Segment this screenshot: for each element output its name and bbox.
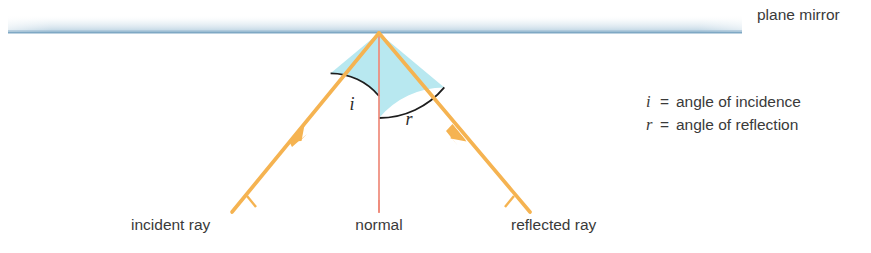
normal-label: normal bbox=[355, 216, 402, 233]
label-leaders bbox=[247, 196, 514, 212]
incident-ray bbox=[232, 33, 379, 212]
reflected-ray bbox=[379, 33, 530, 212]
mirror-band-edge-fade bbox=[8, 15, 742, 32]
incident-ray-line bbox=[232, 33, 379, 212]
legend-text-reflection: angle of reflection bbox=[676, 116, 798, 133]
plane-mirror-label: plane mirror bbox=[757, 6, 840, 23]
legend-equals-r: = bbox=[660, 116, 669, 133]
plane-mirror bbox=[8, 15, 742, 33]
reflected-ray-line bbox=[379, 33, 530, 212]
reflected-ray-label: reflected ray bbox=[511, 216, 597, 233]
legend: i = angle of incidence r = angle of refl… bbox=[646, 92, 801, 134]
angle-label-r: r bbox=[405, 109, 413, 129]
reflected-ray-leader bbox=[505, 196, 514, 207]
reflection-diagram: i r plane mirror i = angle of incidence … bbox=[0, 0, 871, 253]
legend-symbol-r: r bbox=[646, 115, 653, 134]
angle-label-i: i bbox=[349, 94, 354, 114]
incident-ray-leader bbox=[247, 196, 256, 207]
legend-symbol-i: i bbox=[646, 92, 651, 111]
incident-ray-label: incident ray bbox=[131, 216, 211, 233]
legend-text-incidence: angle of incidence bbox=[676, 93, 801, 110]
legend-equals-i: = bbox=[660, 93, 669, 110]
